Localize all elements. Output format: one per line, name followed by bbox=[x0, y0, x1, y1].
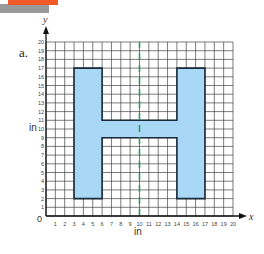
x-tick-label: 18 bbox=[211, 221, 217, 227]
y-axis-symbol: y bbox=[42, 14, 48, 25]
y-tick-label: 12 bbox=[38, 109, 44, 115]
x-tick-label: 12 bbox=[155, 221, 161, 227]
coordinate-grid: yx12345678910111213141516171819201234567… bbox=[0, 0, 264, 254]
part-label: a. bbox=[19, 45, 28, 61]
y-tick-label: 14 bbox=[38, 91, 44, 97]
y-tick-label: 8 bbox=[41, 143, 44, 149]
y-tick-label: 17 bbox=[38, 65, 44, 71]
x-tick-label: 1 bbox=[54, 221, 57, 227]
y-tick-label: 18 bbox=[38, 56, 44, 62]
y-tick-label: 5 bbox=[41, 170, 44, 176]
y-tick-label: 19 bbox=[38, 48, 44, 54]
x-tick-label: 4 bbox=[82, 221, 85, 227]
y-tick-label: 9 bbox=[41, 135, 44, 141]
x-tick-label: 6 bbox=[101, 221, 104, 227]
x-tick-label: 5 bbox=[91, 221, 94, 227]
x-tick-label: 17 bbox=[202, 221, 208, 227]
x-tick-label: 19 bbox=[221, 221, 227, 227]
x-tick-label: 2 bbox=[63, 221, 66, 227]
y-tick-label: 1 bbox=[41, 204, 44, 210]
y-tick-label: 4 bbox=[41, 178, 44, 184]
x-tick-label: 11 bbox=[146, 221, 152, 227]
y-tick-label: 20 bbox=[38, 39, 44, 45]
x-tick-label: 13 bbox=[164, 221, 170, 227]
x-axis-symbol: x bbox=[248, 211, 254, 222]
y-axis-arrow-icon bbox=[43, 26, 49, 34]
x-unit-label: in bbox=[134, 226, 142, 237]
x-tick-label: 8 bbox=[119, 221, 122, 227]
y-tick-label: 2 bbox=[41, 196, 44, 202]
y-tick-label: 3 bbox=[41, 187, 44, 193]
x-tick-label: 14 bbox=[174, 221, 180, 227]
x-tick-label: 20 bbox=[230, 221, 236, 227]
y-unit-label: in bbox=[29, 122, 37, 133]
y-tick-label: 16 bbox=[38, 74, 44, 80]
y-tick-label: 10 bbox=[38, 126, 44, 132]
y-tick-label: 13 bbox=[38, 100, 44, 106]
x-tick-label: 9 bbox=[129, 221, 132, 227]
x-tick-label: 15 bbox=[183, 221, 189, 227]
x-tick-label: 7 bbox=[110, 221, 113, 227]
x-tick-label: 16 bbox=[193, 221, 199, 227]
y-tick-label: 15 bbox=[38, 83, 44, 89]
origin-label: 0 bbox=[37, 214, 42, 224]
y-tick-label: 11 bbox=[38, 117, 44, 123]
y-tick-label: 6 bbox=[41, 161, 44, 167]
x-axis-arrow-icon bbox=[239, 213, 247, 219]
x-tick-label: 3 bbox=[73, 221, 76, 227]
y-tick-label: 7 bbox=[41, 152, 44, 158]
